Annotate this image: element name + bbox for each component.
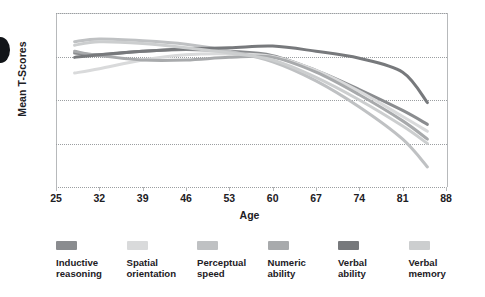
legend-swatch-icon [56, 241, 77, 250]
legend-label-line1: Verbal [409, 257, 480, 268]
x-tick-label: 46 [168, 192, 204, 204]
x-axis-title-text: Age [240, 209, 260, 221]
legend-label-line1: Numeric [268, 257, 339, 268]
x-tick-mark [316, 187, 317, 191]
y-axis-title: Mean T-Scores [16, 19, 28, 139]
x-tick-mark [56, 187, 57, 191]
gridline [56, 187, 447, 188]
legend-label-line1: Spatial [127, 257, 198, 268]
legend-swatch-icon [197, 241, 218, 250]
x-tick-label: 88 [428, 192, 464, 204]
gridline [56, 100, 447, 101]
x-tick-label: 81 [385, 192, 421, 204]
legend-label-line2: ability [338, 268, 409, 279]
x-tick-label: 32 [81, 192, 117, 204]
x-tick-label: 74 [341, 192, 377, 204]
gridline [56, 144, 447, 145]
x-tick-mark [186, 187, 187, 191]
legend-swatch-icon [127, 241, 148, 250]
x-axis-title: Age [0, 209, 485, 221]
gridline [56, 57, 447, 58]
legend-label: Verbalability [338, 257, 409, 280]
legend-label-line2: reasoning [56, 268, 127, 279]
x-tick-label: 25 [38, 192, 74, 204]
legend-swatch-icon [409, 241, 430, 250]
x-tick-mark [359, 187, 360, 191]
legend-label-line2: memory [409, 268, 480, 279]
legend-label: Spatialorientation [127, 257, 198, 280]
chart-legend: InductivereasoningSpatialorientationPerc… [56, 241, 480, 280]
legend-label: Inductivereasoning [56, 257, 127, 280]
legend-label: Perceptualspeed [197, 257, 268, 280]
gridline [56, 13, 447, 14]
legend-label-line2: orientation [127, 268, 198, 279]
x-tick-label: 53 [211, 192, 247, 204]
legend-label-line1: Inductive [56, 257, 127, 268]
x-tick-mark [446, 187, 447, 191]
x-tick-mark [273, 187, 274, 191]
x-tick-mark [99, 187, 100, 191]
x-tick-mark [143, 187, 144, 191]
x-tick-label: 39 [125, 192, 161, 204]
legend-swatch-icon [338, 241, 359, 250]
legend-item[interactable]: Inductivereasoning [56, 241, 127, 280]
legend-label-line1: Perceptual [197, 257, 268, 268]
legend-item[interactable]: Perceptualspeed [197, 241, 268, 280]
legend-swatch-icon [268, 241, 289, 250]
page-edge-marker-icon [0, 37, 10, 63]
chart-root: Mean T-Scores 5550454035 253239465360677… [0, 0, 485, 297]
x-tick-label: 60 [255, 192, 291, 204]
legend-label: Numericability [268, 257, 339, 280]
x-tick-mark [229, 187, 230, 191]
legend-label: Verbalmemory [409, 257, 480, 280]
legend-label-line2: speed [197, 268, 268, 279]
legend-item[interactable]: Numericability [268, 241, 339, 280]
legend-item[interactable]: Spatialorientation [127, 241, 198, 280]
legend-item[interactable]: Verbalability [338, 241, 409, 280]
legend-label-line2: ability [268, 268, 339, 279]
x-tick-mark [403, 187, 404, 191]
legend-label-line1: Verbal [338, 257, 409, 268]
x-tick-label: 67 [298, 192, 334, 204]
legend-item[interactable]: Verbalmemory [409, 241, 480, 280]
